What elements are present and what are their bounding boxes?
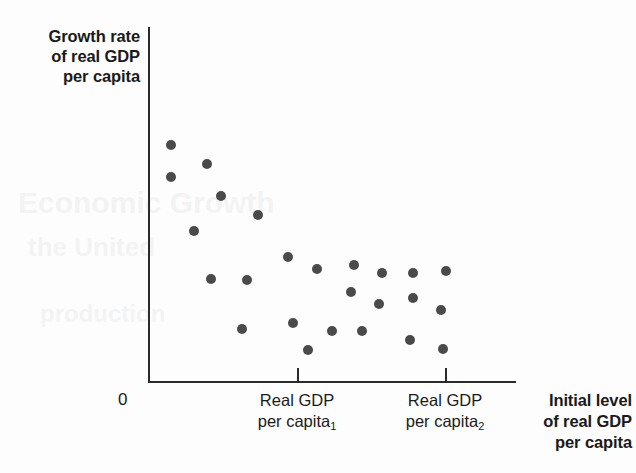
ghost-text-2: the United <box>28 232 155 263</box>
scatter-point <box>441 266 451 276</box>
scatter-point <box>436 305 446 315</box>
ghost-text-3: production <box>40 300 165 328</box>
x-tick-label-2-line-2: per capita2 <box>382 411 508 434</box>
scatter-point <box>374 299 384 309</box>
y-axis-label-line-3: per capita <box>8 66 140 86</box>
x-tick-label-1-line-1: Real GDP <box>234 390 360 411</box>
x-tick-label-1: Real GDP per capita1 <box>234 390 360 434</box>
x-tick-label-1-line-2: per capita1 <box>234 411 360 434</box>
scatter-point <box>312 264 322 274</box>
scatter-point <box>349 260 359 270</box>
scatter-point <box>405 335 415 345</box>
x-tick-label-2: Real GDP per capita2 <box>382 390 508 434</box>
x-axis-label-line-3: per capita <box>506 432 632 453</box>
x-tick-label-1-subscript: 1 <box>330 420 336 432</box>
scatter-point <box>253 210 263 220</box>
x-tick-label-2-subscript: 2 <box>478 420 484 432</box>
x-axis-label-line-1: Initial level <box>506 390 632 411</box>
scatter-point <box>202 159 212 169</box>
scatter-point <box>206 274 216 284</box>
x-axis-label-line-2: of real GDP <box>506 411 632 432</box>
scatter-point <box>303 345 313 355</box>
scatter-point <box>288 318 298 328</box>
y-axis-label-line-2: of real GDP <box>8 46 140 66</box>
x-axis-label: Initial level of real GDP per capita <box>506 390 632 453</box>
plot-area <box>148 27 516 382</box>
scatter-point <box>408 268 418 278</box>
y-axis-label-line-1: Growth rate <box>8 26 140 46</box>
scatter-point <box>237 324 247 334</box>
scatter-point <box>242 275 252 285</box>
scatter-point <box>166 172 176 182</box>
origin-label: 0 <box>118 390 127 410</box>
scatter-point <box>346 287 356 297</box>
scatter-point <box>438 344 448 354</box>
scatter-point <box>327 326 337 336</box>
x-tick-label-2-line-1: Real GDP <box>382 390 508 411</box>
scatter-point <box>408 293 418 303</box>
figure-canvas: Economic Growth the United production Gr… <box>0 0 636 473</box>
scatter-point <box>166 140 176 150</box>
scatter-point <box>377 268 387 278</box>
scatter-point <box>357 326 367 336</box>
y-axis-label: Growth rate of real GDP per capita <box>8 26 140 86</box>
scatter-point <box>189 226 199 236</box>
scatter-point <box>283 252 293 262</box>
scatter-point <box>216 191 226 201</box>
